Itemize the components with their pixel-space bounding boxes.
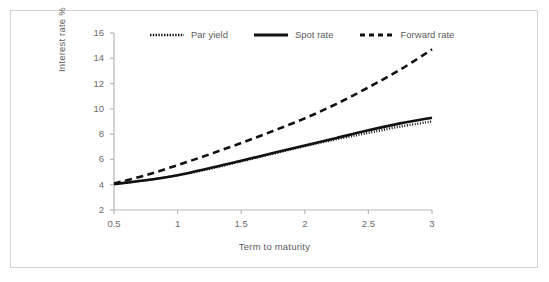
chart-series-group xyxy=(114,49,432,184)
y-tick-label: 6 xyxy=(82,153,104,164)
x-tick-label: 1 xyxy=(163,218,193,229)
legend-label: Forward rate xyxy=(401,29,455,40)
y-tick-label: 8 xyxy=(82,128,104,139)
legend-swatch-dotted-icon xyxy=(150,31,184,39)
x-axis-title: Term to maturity xyxy=(0,241,549,252)
x-axis-ticks xyxy=(114,210,432,214)
legend-item-spot-rate[interactable]: Spot rate xyxy=(254,29,334,40)
x-tick-label: 1.5 xyxy=(226,218,256,229)
x-tick-label: 2 xyxy=(290,218,320,229)
chart-legend: Par yieldSpot rateForward rate xyxy=(150,29,454,40)
x-tick-label: 2.5 xyxy=(353,218,383,229)
series-line-spot-rate xyxy=(114,118,432,184)
x-tick-label: 3 xyxy=(417,218,447,229)
legend-label: Par yield xyxy=(191,29,228,40)
y-axis-title: Interest rate % xyxy=(56,7,67,72)
legend-label: Spot rate xyxy=(295,29,334,40)
y-tick-label: 14 xyxy=(82,52,104,63)
legend-item-forward-rate[interactable]: Forward rate xyxy=(360,29,455,40)
x-tick-label: 0.5 xyxy=(99,218,129,229)
y-tick-label: 4 xyxy=(82,179,104,190)
y-tick-label: 12 xyxy=(82,78,104,89)
legend-swatch-dashed-icon xyxy=(360,31,394,39)
chart-plot-area xyxy=(0,0,549,282)
figure-container: 246810121416 0.511.522.53 Interest rate … xyxy=(0,0,549,282)
legend-swatch-solid-icon xyxy=(254,31,288,39)
y-tick-label: 16 xyxy=(82,27,104,38)
legend-item-par-yield[interactable]: Par yield xyxy=(150,29,228,40)
series-line-forward-rate xyxy=(114,49,432,183)
y-tick-label: 2 xyxy=(82,204,104,215)
y-tick-label: 10 xyxy=(82,103,104,114)
